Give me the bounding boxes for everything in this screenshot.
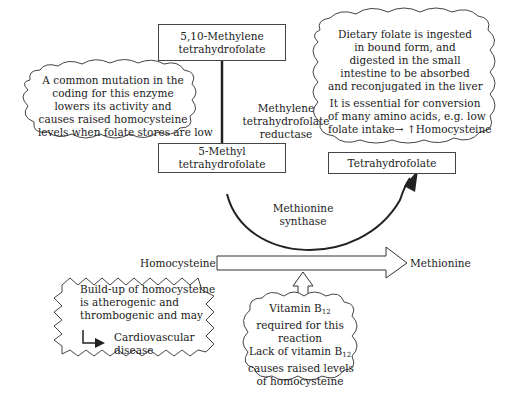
node-label: tetrahydrofolate bbox=[179, 43, 266, 56]
text-line: A common mutation in the bbox=[38, 74, 188, 87]
text-line: tetrahydrofolate bbox=[236, 115, 336, 128]
text-line: and reconjugated in the liver bbox=[328, 80, 482, 93]
node-label: Tetrahydrofolate bbox=[348, 157, 437, 170]
methionine-label: Methionine bbox=[410, 257, 471, 270]
text-line: reaction bbox=[248, 332, 352, 345]
text-line: folate intake→ ↑Homocysteine bbox=[328, 123, 482, 136]
text-line: intestine to be absorbed bbox=[328, 67, 482, 80]
text-line: causes raised homocysteine bbox=[38, 113, 188, 126]
text-line: of homocysteine bbox=[248, 375, 352, 388]
text-line: disease bbox=[114, 344, 195, 357]
text-line: in bound form, and bbox=[328, 41, 482, 54]
homocysteine-label: Homocysteine bbox=[140, 257, 216, 270]
text-line: Build-up of homocysteine bbox=[80, 283, 215, 296]
b12-callout-text: Vitamin B12 required for this reaction L… bbox=[248, 302, 352, 388]
text-line: of many amino acids, e.g. low bbox=[328, 110, 482, 123]
text-line: is atherogenic and bbox=[80, 296, 215, 309]
node-label: 5,10-Methylene bbox=[180, 30, 263, 43]
node-label: tetrahydrofolate bbox=[179, 158, 266, 171]
text-line: Dietary folate is ingested bbox=[328, 28, 482, 41]
cardiovascular-outcome-text: Cardiovascular disease bbox=[114, 331, 195, 357]
mutation-callout-text: A common mutation in the coding for this… bbox=[38, 74, 188, 139]
text-line: Vitamin B12 bbox=[248, 302, 352, 319]
text-line: required for this bbox=[248, 319, 352, 332]
text-line: Methylene bbox=[236, 102, 336, 115]
text-line: causes raised levels bbox=[248, 362, 352, 375]
text-line: Methionine bbox=[258, 202, 348, 215]
text-line: levels when folate stores are low bbox=[38, 126, 188, 139]
enzyme-mthfr-label: Methylene tetrahydrofolate reductase bbox=[236, 102, 336, 141]
node-thf: Tetrahydrofolate bbox=[328, 152, 456, 174]
enzyme-methionine-synthase-label: Methionine synthase bbox=[258, 202, 348, 228]
text-line: reductase bbox=[236, 128, 336, 141]
text-line: coding for this enzyme bbox=[38, 87, 188, 100]
text-line: It is essential for conversion bbox=[328, 97, 482, 110]
node-label: 5-Methyl bbox=[198, 145, 245, 158]
dietary-folate-callout-text: Dietary folate is ingested in bound form… bbox=[328, 28, 482, 136]
homocysteine-to-methionine-arrow bbox=[217, 247, 407, 278]
text-line: lowers its activity and bbox=[38, 100, 188, 113]
text-line: Lack of vitamin B12 bbox=[248, 345, 352, 362]
node-methyl-thf: 5-Methyl tetrahydrofolate bbox=[158, 143, 286, 173]
text-line: Cardiovascular bbox=[114, 331, 195, 344]
text-line: thrombogenic and may bbox=[80, 309, 215, 322]
text-line: digested in the small bbox=[328, 54, 482, 67]
buildup-callout-text: Build-up of homocysteine is atherogenic … bbox=[80, 283, 215, 322]
text-line: synthase bbox=[258, 215, 348, 228]
node-methylene-thf: 5,10-Methylene tetrahydrofolate bbox=[158, 24, 286, 61]
